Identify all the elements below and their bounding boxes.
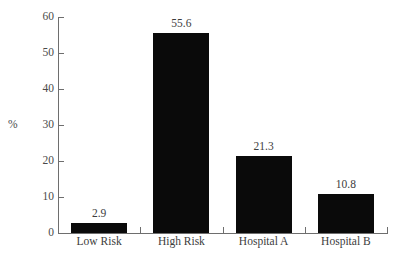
bar-chart: % 0102030405060 2.9Low Risk55.6High Risk… [0, 0, 402, 260]
y-axis-tick [58, 17, 64, 18]
x-axis-tick [223, 227, 224, 234]
y-axis-tick [58, 197, 64, 198]
x-axis-category-label: Hospital B [296, 236, 396, 248]
x-axis-tick [305, 227, 306, 234]
bar[interactable] [153, 33, 209, 233]
y-axis-tick-label: 60 [24, 11, 54, 23]
y-axis-tick-label-wrap: 10 [22, 191, 54, 203]
bar[interactable] [71, 223, 127, 233]
y-axis-tick-label-wrap: 40 [22, 83, 54, 95]
bar-value-label: 2.9 [59, 208, 139, 220]
y-axis-tick-label: 50 [24, 47, 54, 59]
y-axis-title: % [8, 119, 18, 131]
bar-value-label: 10.8 [306, 179, 386, 191]
bar-value-label: 55.6 [141, 18, 221, 30]
y-axis-tick-label: 40 [24, 83, 54, 95]
bar[interactable] [236, 156, 292, 233]
y-axis-tick-label: 10 [24, 191, 54, 203]
y-axis-tick-label-wrap: 30 [22, 119, 54, 131]
y-axis-tick-label: 30 [24, 119, 54, 131]
y-axis-tick [58, 125, 64, 126]
bar[interactable] [318, 194, 374, 233]
x-axis-tick [58, 227, 59, 234]
y-axis-tick-label-wrap: 60 [22, 11, 54, 23]
y-axis-tick [58, 89, 64, 90]
x-axis-tick [387, 227, 388, 234]
bar-value-label: 21.3 [224, 141, 304, 153]
y-axis-tick-label-wrap: 20 [22, 155, 54, 167]
y-axis-tick [58, 53, 64, 54]
y-axis-tick-label-wrap: 50 [22, 47, 54, 59]
x-axis-tick [140, 227, 141, 234]
y-axis-tick-label: 20 [24, 155, 54, 167]
y-axis-tick [58, 161, 64, 162]
